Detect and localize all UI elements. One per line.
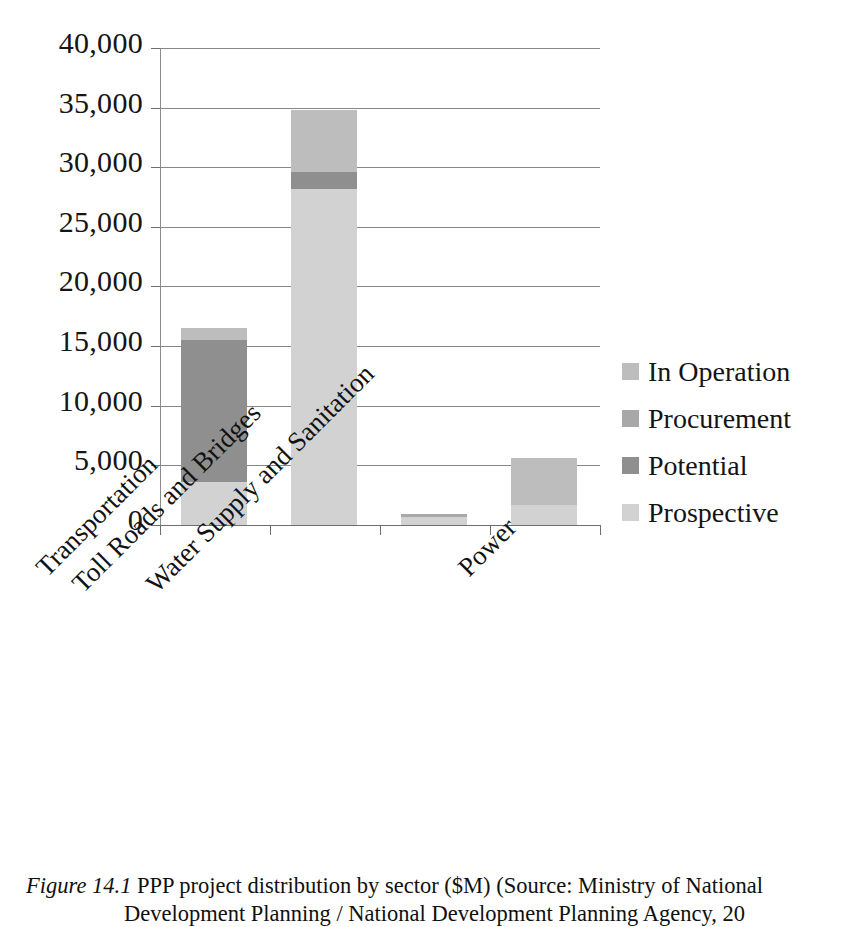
legend-item-potential[interactable]: Potential	[622, 442, 863, 489]
gridline-35000	[160, 108, 600, 109]
bar-segment-power-in-operation[interactable]	[511, 458, 577, 505]
legend-swatch-icon-potential	[622, 457, 639, 474]
figure-caption-number: Figure 14.1	[26, 873, 131, 898]
y-tickmark-40000	[151, 48, 160, 49]
legend-swatch-icon-prospective	[622, 504, 639, 521]
legend-swatch-icon-in-operation	[622, 363, 639, 380]
y-axis-labels: 0 5,000 10,000 15,000 20,000 25,000 30,0…	[0, 0, 143, 927]
bar-segment-water-supply-prospective[interactable]	[401, 517, 467, 525]
bar-segment-transportation-in-operation[interactable]	[181, 328, 247, 340]
y-tick-label-20000: 20,000	[59, 266, 143, 296]
y-tickmark-10000	[151, 406, 160, 407]
y-tickmark-20000	[151, 286, 160, 287]
x-tickmark-2	[380, 525, 381, 535]
y-tick-label-40000: 40,000	[59, 28, 143, 58]
bar-segment-power-prospective[interactable]	[511, 505, 577, 525]
y-tickmark-30000	[151, 167, 160, 168]
y-tick-label-35000: 35,000	[59, 88, 143, 118]
gridline-25000	[160, 227, 600, 228]
figure-caption-line2: Development Planning / National Developm…	[26, 900, 863, 927]
gridline-30000	[160, 167, 600, 168]
gridline-20000	[160, 286, 600, 287]
legend-label-prospective: Prospective	[648, 498, 779, 528]
gridline-40000	[160, 48, 600, 49]
x-tickmark-0	[160, 525, 161, 535]
legend-item-prospective[interactable]: Prospective	[622, 489, 863, 536]
y-tick-label-25000: 25,000	[59, 207, 143, 237]
y-tickmark-35000	[151, 108, 160, 109]
legend-label-procurement: Procurement	[648, 404, 791, 434]
legend: In Operation Procurement Potential Prosp…	[622, 348, 863, 536]
figure-container: 0 5,000 10,000 15,000 20,000 25,000 30,0…	[0, 0, 863, 927]
bar-segment-toll-roads-potential[interactable]	[291, 172, 357, 189]
y-tickmark-15000	[151, 346, 160, 347]
y-tick-label-30000: 30,000	[59, 147, 143, 177]
bar-segment-toll-roads-prospective[interactable]	[291, 189, 357, 525]
figure-caption: Figure 14.1 PPP project distribution by …	[26, 872, 863, 927]
bar-power[interactable]	[511, 458, 577, 525]
bar-water-supply-and-sanitation[interactable]	[401, 514, 467, 525]
figure-caption-line1: PPP project distribution by sector ($M) …	[137, 873, 763, 898]
legend-item-in-operation[interactable]: In Operation	[622, 348, 863, 395]
legend-item-procurement[interactable]: Procurement	[622, 395, 863, 442]
y-tick-label-15000: 15,000	[59, 326, 143, 356]
legend-label-in-operation: In Operation	[648, 357, 790, 387]
bar-segment-toll-roads-in-operation[interactable]	[291, 110, 357, 172]
y-tick-label-10000: 10,000	[59, 386, 143, 416]
y-tickmark-25000	[151, 227, 160, 228]
legend-swatch-icon-procurement	[622, 410, 639, 427]
x-tickmark-1	[270, 525, 271, 535]
bar-toll-roads-and-bridges[interactable]	[291, 110, 357, 525]
x-tickmark-4	[600, 525, 601, 535]
legend-label-potential: Potential	[648, 451, 748, 481]
